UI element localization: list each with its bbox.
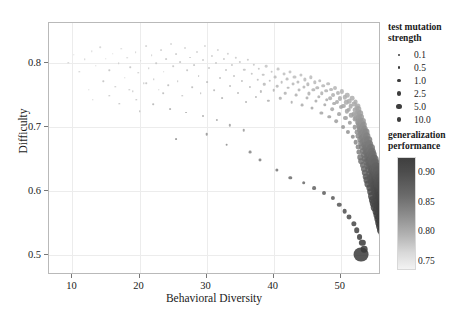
colorbar-gradient bbox=[397, 157, 416, 270]
scatter-point bbox=[277, 68, 280, 71]
scatter-point bbox=[295, 94, 298, 97]
scatter-point bbox=[105, 58, 106, 59]
scatter-point bbox=[95, 65, 96, 66]
scatter-point bbox=[229, 85, 231, 87]
scatter-point bbox=[328, 115, 331, 118]
scatter-point bbox=[331, 93, 335, 97]
scatter-point bbox=[78, 71, 79, 72]
scatter-point bbox=[193, 64, 195, 66]
scatter-point bbox=[219, 77, 221, 79]
scatter-point bbox=[341, 104, 345, 108]
scatter-point bbox=[340, 89, 344, 93]
scatter-point bbox=[341, 125, 345, 129]
scatter-point bbox=[276, 85, 279, 88]
scatter-point bbox=[84, 59, 85, 60]
size-legend-entry: 1.0 bbox=[388, 74, 466, 87]
scatter-point bbox=[68, 62, 69, 63]
scatter-point bbox=[279, 97, 281, 99]
scatter-point bbox=[88, 89, 89, 90]
size-legend-value: 0.1 bbox=[414, 50, 426, 60]
size-legend-value: 1.0 bbox=[414, 76, 426, 86]
scatter-point bbox=[265, 65, 268, 68]
scatter-point bbox=[182, 95, 183, 96]
scatter-point bbox=[160, 49, 162, 51]
scatter-point bbox=[263, 83, 265, 85]
colorbar-tick-label: 0.85 bbox=[418, 197, 435, 207]
color-legend-title-line1: generalization bbox=[388, 130, 466, 141]
x-tick-label: 40 bbox=[267, 280, 278, 291]
scatter-point bbox=[148, 68, 150, 70]
scatter-point bbox=[221, 97, 223, 99]
scatter-point bbox=[287, 86, 290, 89]
scatter-point bbox=[163, 71, 165, 73]
scatter-point bbox=[316, 86, 319, 89]
y-tick-mark bbox=[44, 254, 48, 255]
scatter-point bbox=[248, 86, 250, 88]
scatter-point bbox=[255, 96, 257, 98]
scatter-point bbox=[152, 103, 154, 105]
scatter-point bbox=[145, 82, 147, 84]
scatter-point bbox=[337, 112, 341, 116]
scatter-point bbox=[250, 72, 252, 74]
scatter-point bbox=[282, 73, 285, 76]
size-legend: test mutation strength 0.10.51.02.55.010… bbox=[388, 22, 466, 126]
scatter-point bbox=[73, 54, 74, 55]
scatter-plot-figure: 1020304050 0.50.60.70.8 Behavioral Diver… bbox=[0, 0, 466, 315]
scatter-point bbox=[208, 67, 210, 69]
y-tick-mark bbox=[44, 62, 48, 63]
legend-dot-icon bbox=[397, 79, 401, 83]
scatter-point bbox=[353, 247, 368, 262]
scatter-point bbox=[245, 101, 247, 103]
x-tick-mark bbox=[71, 274, 72, 278]
scatter-point bbox=[124, 77, 125, 78]
scatter-point bbox=[298, 89, 301, 92]
scatter-point bbox=[312, 186, 316, 190]
scatter-point bbox=[132, 91, 133, 92]
scatter-point bbox=[225, 143, 228, 146]
scatter-point bbox=[165, 58, 167, 60]
scatter-point bbox=[272, 89, 275, 92]
scatter-point bbox=[357, 234, 363, 240]
scatter-point bbox=[318, 79, 322, 83]
scatter-point bbox=[292, 83, 295, 86]
size-legend-title-line2: strength bbox=[388, 33, 466, 44]
x-tick-mark bbox=[340, 274, 341, 278]
scatter-point bbox=[129, 89, 130, 90]
size-legend-value: 5.0 bbox=[414, 102, 426, 112]
scatter-point bbox=[313, 81, 316, 84]
scatter-point bbox=[351, 135, 355, 139]
scatter-point bbox=[346, 130, 350, 134]
scatter-point bbox=[274, 75, 277, 78]
scatter-point bbox=[135, 51, 137, 53]
x-tick-label: 10 bbox=[66, 280, 77, 291]
scatter-point bbox=[267, 100, 269, 102]
scatter-point bbox=[256, 79, 259, 82]
legend-dot-icon bbox=[398, 66, 401, 69]
scatter-point bbox=[328, 96, 332, 100]
legend-dot-icon bbox=[396, 104, 402, 110]
color-legend: generalization performance 0.900.850.800… bbox=[388, 130, 466, 277]
colorbar-tick-label: 0.75 bbox=[418, 256, 435, 266]
scatter-point bbox=[347, 215, 352, 220]
x-tick-mark bbox=[273, 274, 274, 278]
size-legend-marker bbox=[388, 91, 410, 96]
scatter-point bbox=[186, 112, 188, 114]
scatter-point bbox=[109, 70, 110, 71]
scatter-point bbox=[162, 93, 164, 95]
scatter-point bbox=[320, 92, 323, 95]
scatter-point bbox=[129, 66, 131, 68]
y-tick-mark bbox=[44, 190, 48, 191]
y-tick-label: 0.8 bbox=[28, 56, 41, 67]
scatter-point bbox=[169, 108, 171, 110]
scatter-point bbox=[216, 119, 218, 121]
legend-dot-icon bbox=[398, 54, 400, 56]
x-tick-mark bbox=[139, 274, 140, 278]
color-legend-title-line2: performance bbox=[388, 141, 466, 152]
scatter-point bbox=[290, 101, 293, 104]
scatter-point bbox=[243, 68, 245, 70]
scatter-point bbox=[351, 221, 356, 226]
scatter-point bbox=[252, 63, 254, 65]
scatter-point bbox=[247, 59, 249, 61]
scatter-point bbox=[231, 64, 233, 66]
size-legend-marker bbox=[388, 79, 410, 83]
